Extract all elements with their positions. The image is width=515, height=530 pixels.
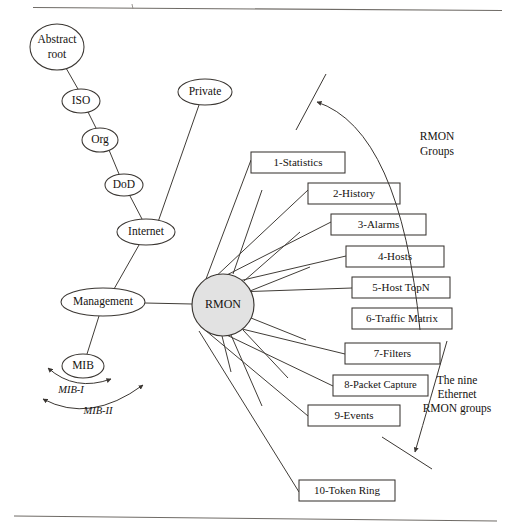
group-box-5-label: 5-Host TopN xyxy=(372,281,429,293)
group-box-2[interactable]: 2-History xyxy=(308,183,400,204)
group-box-10[interactable]: 10-Token Ring xyxy=(299,480,395,501)
group-box-1-label: 1-Statistics xyxy=(274,156,323,168)
mib-ii-label: MIB-II xyxy=(82,405,113,416)
edge-management-mib xyxy=(87,316,99,354)
spoke-g1 xyxy=(206,160,251,279)
group-box-6-label: 6-Traffic Matrix xyxy=(366,312,438,324)
iso-label: ISO xyxy=(72,94,91,106)
group-box-9[interactable]: 9-Events xyxy=(308,405,400,426)
private-label: Private xyxy=(189,85,222,97)
spoke-g10 xyxy=(199,331,299,492)
edge-dod-internet xyxy=(130,196,142,219)
group-box-5[interactable]: 5-Host TopN xyxy=(352,277,450,298)
tree-node-org[interactable]: Org xyxy=(82,128,118,152)
rmon-diagram-figure: Abstract root ISO Org DoD Internet Priva… xyxy=(0,0,515,530)
edge-management-rmon xyxy=(145,303,192,304)
edge-internet-management xyxy=(114,245,139,289)
group-box-2-label: 2-History xyxy=(333,187,376,199)
spoke-extra-d xyxy=(251,318,306,340)
dod-label: DoD xyxy=(113,178,135,190)
rmon-groups-slash xyxy=(296,74,326,130)
spoke-extra-c xyxy=(250,267,310,291)
group-box-7-label: 7-Filters xyxy=(374,347,411,359)
mib-label: MIB xyxy=(72,359,94,371)
edge-org-dod xyxy=(109,150,119,174)
group-box-6[interactable]: 6-Traffic Matrix xyxy=(352,308,452,329)
spoke-extra-a xyxy=(233,190,262,274)
tree-node-private[interactable]: Private xyxy=(178,79,232,105)
rmon-node[interactable]: RMON xyxy=(192,274,254,336)
spoke-extra-e xyxy=(243,330,288,378)
group-box-9-label: 9-Events xyxy=(334,409,373,421)
nine-ethernet-label-line3: RMON groups xyxy=(423,402,492,415)
spoke-g9 xyxy=(205,330,308,416)
tree-node-management[interactable]: Management xyxy=(61,288,145,316)
group-box-4-label: 4-Hosts xyxy=(378,250,412,262)
nine-ethernet-label-line1: The nine xyxy=(437,374,478,386)
internet-label: Internet xyxy=(128,225,165,237)
nine-ethernet-label-line2: Ethernet xyxy=(438,388,478,400)
bottom-rule xyxy=(14,516,497,521)
edge-iso-org xyxy=(88,112,96,128)
nine-ethernet-slash xyxy=(382,437,432,469)
abstract-root-label-line1: Abstract xyxy=(38,33,78,45)
group-box-3-label: 3-Alarms xyxy=(358,218,400,230)
edge-abstractroot-iso xyxy=(66,68,78,89)
group-box-8[interactable]: 8-Packet Capture xyxy=(333,375,428,396)
tree-node-internet[interactable]: Internet xyxy=(117,219,175,245)
rmon-label: RMON xyxy=(205,297,241,311)
group-box-10-label: 10-Token Ring xyxy=(314,484,381,496)
tree-node-abstract-root[interactable]: Abstract root xyxy=(30,24,84,70)
group-box-3[interactable]: 3-Alarms xyxy=(331,214,426,235)
tree-node-iso[interactable]: ISO xyxy=(62,89,100,113)
top-rule xyxy=(33,8,502,11)
org-label: Org xyxy=(91,133,109,146)
tree-node-dod[interactable]: DoD xyxy=(105,174,143,196)
edge-private-internet xyxy=(158,105,199,222)
group-box-1[interactable]: 1-Statistics xyxy=(251,152,345,173)
spoke-extra-g xyxy=(222,336,231,372)
group-box-8-label: 8-Packet Capture xyxy=(344,379,417,390)
management-label: Management xyxy=(73,295,134,308)
abstract-root-label-line2: root xyxy=(48,48,67,60)
tree-node-mib[interactable]: MIB xyxy=(62,354,104,378)
rmon-groups-label-line2: Groups xyxy=(420,145,454,158)
group-box-7[interactable]: 7-Filters xyxy=(345,343,440,364)
rmon-groups-label-line1: RMON xyxy=(420,130,455,142)
group-box-4[interactable]: 4-Hosts xyxy=(346,246,444,267)
mib-i-label: MIB-I xyxy=(57,384,84,395)
